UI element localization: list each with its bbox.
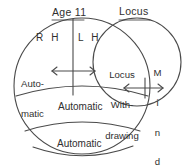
mind-letter-i: i xyxy=(152,98,163,108)
automatic-upper-left-label: Auto- matic xyxy=(21,59,44,140)
band-bottom-label: Automatic xyxy=(57,139,101,150)
left-hemisphere-label: L H xyxy=(78,33,101,44)
right-hemisphere-label: R H xyxy=(36,33,61,44)
age-label: Age 11 xyxy=(52,7,86,18)
automatic-upper-left-line-1: Auto- xyxy=(21,79,44,89)
mind-letter-d: d xyxy=(152,157,163,167)
locus-label: Locus xyxy=(119,6,149,17)
mind-vertical-label: M i n d xyxy=(152,48,163,167)
locus-withdrawing-line-1: Locus xyxy=(98,70,146,80)
mind-letter-n: n xyxy=(152,128,163,138)
locus-withdrawing-line-2: With- xyxy=(98,100,146,110)
mind-letter-m: M xyxy=(152,68,163,78)
automatic-upper-left-line-2: matic xyxy=(21,109,44,119)
locus-withdrawing-line-3: drawing xyxy=(98,131,146,141)
locus-withdrawing-label: Locus With- drawing xyxy=(98,50,146,161)
band-middle-label: Automatic xyxy=(58,102,102,113)
venn-diagram-container: Age 11 Locus R H L H Auto- matic Locus W… xyxy=(0,0,190,167)
